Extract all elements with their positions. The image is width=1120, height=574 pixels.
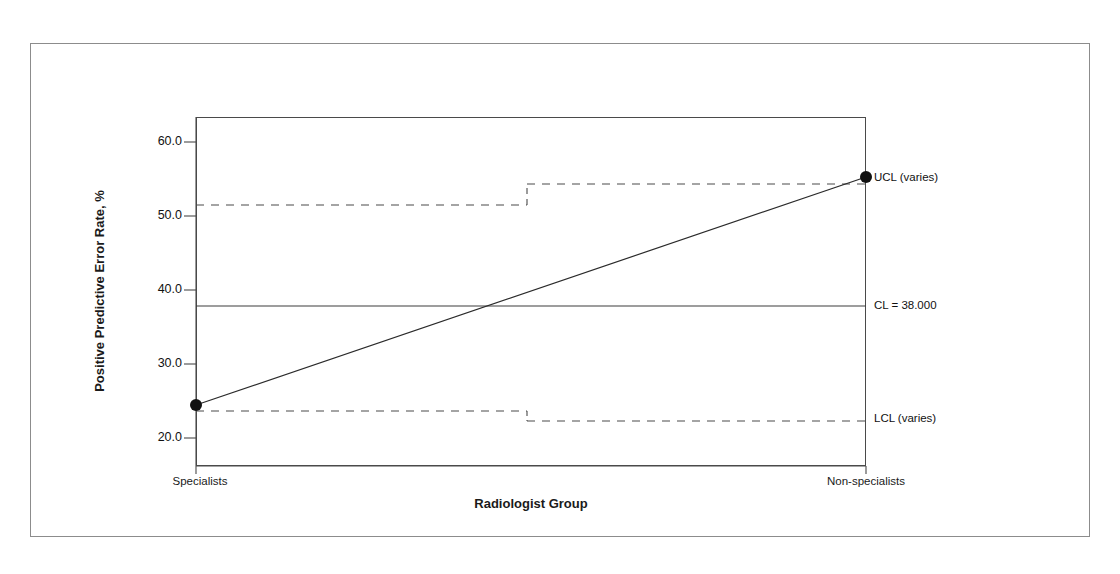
chart-vector-layer bbox=[0, 0, 1120, 574]
data-point-specialists[interactable] bbox=[190, 399, 202, 411]
control-chart-figure: Positive Predictive Error Rate, % 60.0 5… bbox=[0, 0, 1120, 574]
series-line bbox=[196, 177, 866, 405]
data-point-non-specialists[interactable] bbox=[860, 171, 872, 183]
upper-control-limit-line bbox=[196, 184, 866, 205]
lower-control-limit-line bbox=[196, 411, 866, 421]
